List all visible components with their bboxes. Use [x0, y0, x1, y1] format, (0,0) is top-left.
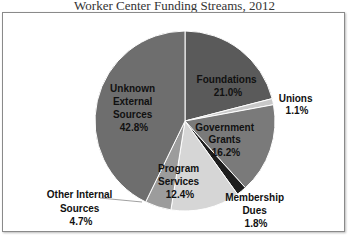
label-other-internal-sources: Other Internal Sources 4.7% — [47, 189, 115, 227]
label-membership-dues: Membership Dues 1.8% — [225, 192, 287, 229]
label-unions: Unions 1.1% — [279, 93, 316, 116]
pie-chart: Foundations 21.0% Unions 1.1% Government… — [0, 0, 349, 235]
